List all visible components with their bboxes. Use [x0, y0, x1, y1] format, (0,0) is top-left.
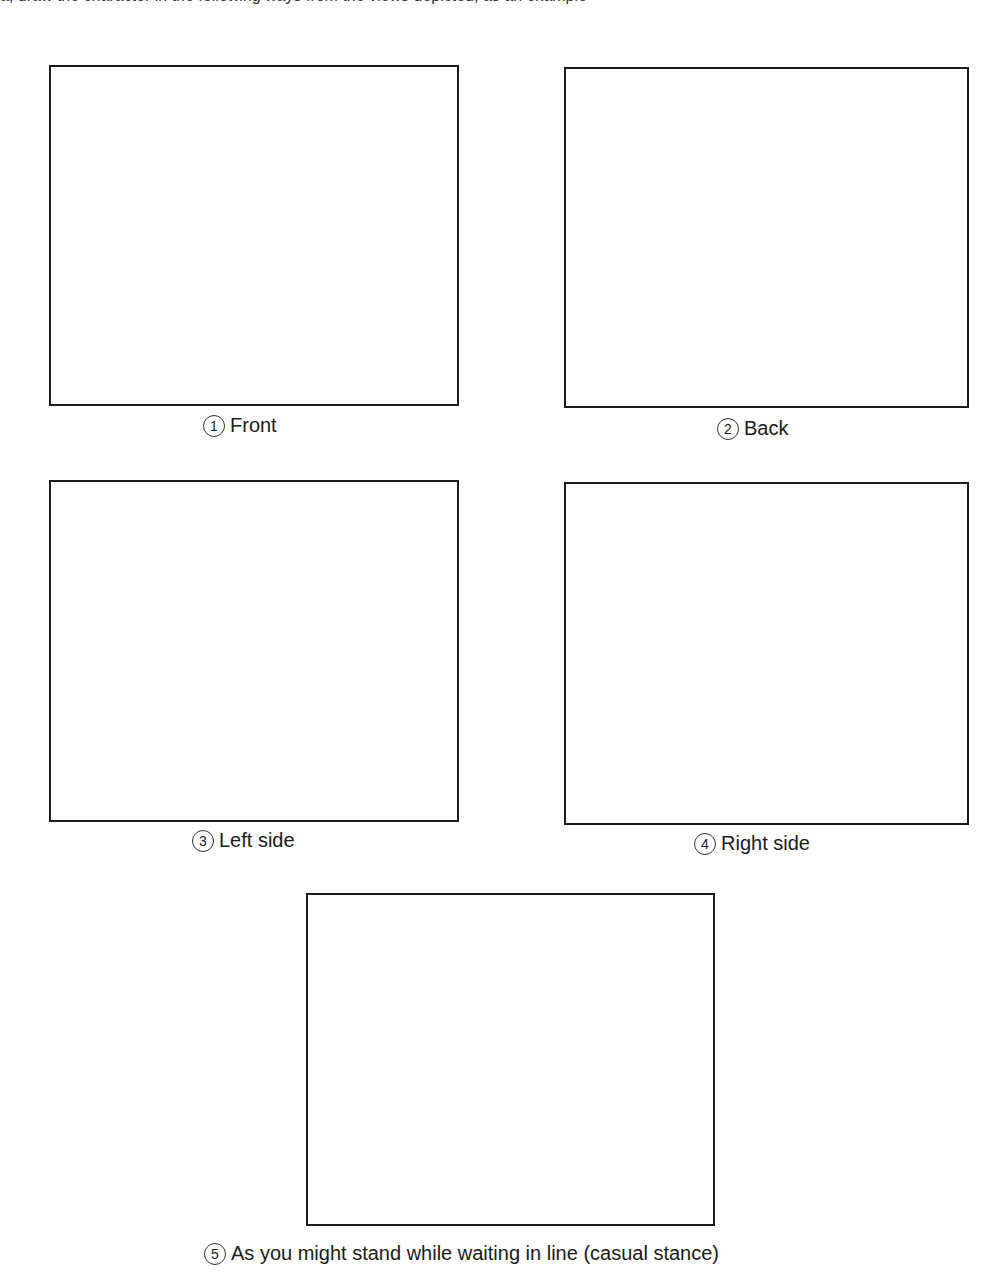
caption-label: Right side	[721, 832, 810, 855]
caption-label: As you might stand while waiting in line…	[231, 1242, 719, 1265]
caption-back: 2 Back	[717, 417, 788, 440]
number-circle-icon: 5	[204, 1243, 226, 1265]
caption-casual-stance: 5 As you might stand while waiting in li…	[204, 1242, 719, 1265]
caption-label: Front	[230, 414, 277, 437]
caption-right-side: 4 Right side	[694, 832, 810, 855]
caption-label: Left side	[219, 829, 295, 852]
drawing-box-right-side[interactable]	[564, 482, 969, 825]
number-circle-icon: 3	[192, 830, 214, 852]
number-circle-icon: 1	[203, 415, 225, 437]
cut-off-instruction-text: a, draw the character in the following w…	[0, 0, 1005, 4]
number-circle-icon: 4	[694, 833, 716, 855]
drawing-box-left-side[interactable]	[49, 480, 459, 822]
caption-label: Back	[744, 417, 788, 440]
drawing-box-casual-stance[interactable]	[306, 893, 715, 1226]
drawing-box-back[interactable]	[564, 67, 969, 408]
caption-left-side: 3 Left side	[192, 829, 295, 852]
number-circle-icon: 2	[717, 418, 739, 440]
caption-front: 1 Front	[203, 414, 277, 437]
drawing-box-front[interactable]	[49, 65, 459, 406]
